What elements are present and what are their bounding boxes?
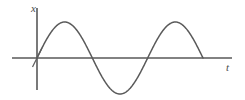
- horizontal-axis-label: t: [226, 62, 229, 73]
- vertical-axis-label: x: [31, 3, 36, 14]
- plot-canvas: [0, 0, 245, 100]
- sine-wave-figure: x t: [0, 0, 245, 100]
